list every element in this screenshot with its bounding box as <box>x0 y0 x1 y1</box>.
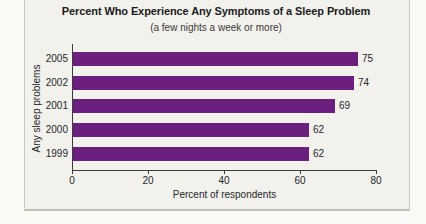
x-axis-tick-label: 40 <box>204 175 244 186</box>
x-axis-tick-label: 20 <box>128 175 168 186</box>
bar-value-label: 69 <box>339 99 350 113</box>
bar <box>73 76 354 90</box>
category-label: 2000 <box>26 123 68 137</box>
bar <box>73 99 335 113</box>
x-axis-tick <box>72 170 73 174</box>
x-axis-tick-label: 60 <box>280 175 320 186</box>
x-axis-tick <box>376 170 377 174</box>
plot-area: Any sleep problems 2005 75 2002 74 2001 … <box>0 0 426 224</box>
x-axis-tick <box>224 170 225 174</box>
bar-value-label: 62 <box>313 147 324 161</box>
bar-value-label: 74 <box>358 76 369 90</box>
bar <box>73 147 309 161</box>
category-label: 2002 <box>26 76 68 90</box>
category-label: 2001 <box>26 99 68 113</box>
category-label: 2005 <box>26 52 68 66</box>
bar <box>73 123 309 137</box>
x-axis-tick-label: 0 <box>52 175 92 186</box>
bar <box>73 52 358 66</box>
x-axis-title: Percent of respondents <box>72 189 377 200</box>
figure: Percent Who Experience Any Symptoms of a… <box>0 0 426 224</box>
bar-value-label: 75 <box>362 52 373 66</box>
x-axis-tick <box>300 170 301 174</box>
x-axis-tick <box>148 170 149 174</box>
bar-value-label: 62 <box>313 123 324 137</box>
x-axis-tick-label: 80 <box>356 175 396 186</box>
category-label: 1999 <box>26 147 68 161</box>
